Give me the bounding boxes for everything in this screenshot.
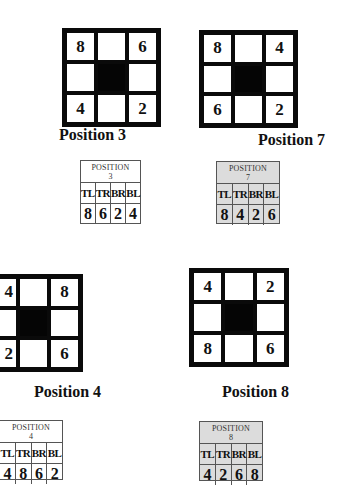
- table-title: POSITION: [200, 424, 262, 433]
- key-tr: TR: [216, 444, 232, 464]
- cell-top-right: 2: [257, 273, 284, 300]
- table-number: 8: [200, 433, 262, 442]
- cell-center-filled: [98, 64, 125, 91]
- table-title: POSITION: [217, 164, 279, 173]
- table-key-row: TL TR BR BL: [81, 183, 140, 204]
- label-position-4: Position 4: [34, 383, 101, 401]
- cell-bottom-right: 2: [266, 96, 293, 123]
- key-bl: BL: [247, 444, 262, 464]
- table-value-row: 4 2 6 8: [200, 465, 262, 485]
- cell-bottom-left: 6: [204, 96, 231, 123]
- cell-middle-right: [266, 66, 293, 93]
- value-tl: 4: [0, 464, 16, 484]
- key-br: BR: [232, 444, 248, 464]
- cell-bottom-center: [225, 335, 252, 362]
- cell-center-filled: [225, 304, 252, 331]
- key-tr: TR: [233, 184, 249, 204]
- cell-middle-right: [51, 310, 78, 337]
- table-value-row: 8 4 2 6: [217, 205, 279, 225]
- grid-position-8: 4 2 8 6: [189, 268, 289, 367]
- grid-position-3: 8 6 4 2: [62, 28, 161, 127]
- table-position-3: POSITION 3 TL TR BR BL 8 6 2 4: [80, 160, 141, 224]
- cell-bottom-right: 6: [257, 335, 284, 362]
- key-br: BR: [32, 443, 48, 463]
- key-tr: TR: [96, 183, 111, 203]
- value-br: 2: [111, 204, 126, 224]
- table-header: POSITION 3: [81, 161, 140, 183]
- key-tl: TL: [200, 444, 216, 464]
- label-position-3: Position 3: [59, 126, 126, 144]
- value-bl: 8: [247, 465, 262, 485]
- cell-center-filled: [20, 310, 47, 337]
- cell-bottom-right: 6: [51, 340, 78, 367]
- value-br: 2: [249, 205, 265, 225]
- cell-middle-right: [257, 304, 284, 331]
- key-bl: BL: [126, 183, 140, 203]
- value-tr: 4: [233, 205, 249, 225]
- table-number: 4: [0, 432, 62, 441]
- key-bl: BL: [264, 184, 279, 204]
- cell-top-right: 4: [266, 35, 293, 62]
- table-position-8: POSITION 8 TL TR BR BL 4 2 6 8: [199, 421, 263, 481]
- cell-top-left: 8: [204, 35, 231, 62]
- key-br: BR: [111, 183, 126, 203]
- key-tl: TL: [81, 183, 96, 203]
- table-value-row: 8 6 2 4: [81, 204, 140, 224]
- value-bl: 2: [47, 464, 62, 484]
- cell-middle-left: [204, 66, 231, 93]
- value-tl: 4: [200, 465, 216, 485]
- table-key-row: TL TR BR BL: [0, 443, 62, 464]
- value-tl: 8: [81, 204, 96, 224]
- table-header: POSITION 8: [200, 422, 262, 444]
- cell-bottom-center: [20, 340, 47, 367]
- cell-top-right: 6: [129, 33, 156, 60]
- cell-bottom-center: [235, 96, 262, 123]
- table-header: POSITION 7: [217, 162, 279, 184]
- key-tl: TL: [217, 184, 233, 204]
- cell-top-right: 8: [51, 279, 78, 306]
- cell-top-left: 4: [194, 273, 221, 300]
- cell-top-left: 4: [0, 279, 16, 306]
- key-tl: TL: [0, 443, 16, 463]
- cell-top-left: 8: [67, 33, 94, 60]
- table-key-row: TL TR BR BL: [200, 444, 262, 465]
- table-value-row: 4 8 6 2: [0, 464, 62, 484]
- value-tr: 8: [16, 464, 32, 484]
- table-header: POSITION 4: [0, 421, 62, 443]
- value-tr: 6: [96, 204, 111, 224]
- cell-top-center: [98, 33, 125, 60]
- grid-position-4: 4 8 2 6: [0, 274, 83, 372]
- value-tr: 2: [216, 465, 232, 485]
- cell-middle-left: [67, 64, 94, 91]
- cell-middle-right: [129, 64, 156, 91]
- value-bl: 4: [126, 204, 140, 224]
- table-number: 7: [217, 173, 279, 182]
- value-br: 6: [232, 465, 248, 485]
- cell-middle-left: [194, 304, 221, 331]
- table-position-7: POSITION 7 TL TR BR BL 8 4 2 6: [216, 161, 280, 224]
- cell-bottom-left: 8: [194, 335, 221, 362]
- key-bl: BL: [47, 443, 62, 463]
- cell-top-center: [225, 273, 252, 300]
- cell-middle-left: [0, 310, 16, 337]
- cell-center-filled: [235, 66, 262, 93]
- grid-position-7: 8 4 6 2: [199, 30, 298, 128]
- label-position-8: Position 8: [222, 383, 289, 401]
- table-key-row: TL TR BR BL: [217, 184, 279, 205]
- table-position-4: POSITION 4 TL TR BR BL 4 8 6 2: [0, 420, 63, 480]
- key-tr: TR: [16, 443, 32, 463]
- cell-top-center: [235, 35, 262, 62]
- cell-bottom-left: 2: [0, 340, 16, 367]
- table-title: POSITION: [81, 163, 140, 172]
- cell-bottom-left: 4: [67, 95, 94, 122]
- value-bl: 6: [264, 205, 279, 225]
- key-br: BR: [249, 184, 265, 204]
- cell-bottom-right: 2: [129, 95, 156, 122]
- cell-bottom-center: [98, 95, 125, 122]
- cell-top-center: [20, 279, 47, 306]
- table-number: 3: [81, 172, 140, 181]
- label-position-7: Position 7: [258, 131, 325, 149]
- value-tl: 8: [217, 205, 233, 225]
- value-br: 6: [32, 464, 48, 484]
- table-title: POSITION: [0, 423, 62, 432]
